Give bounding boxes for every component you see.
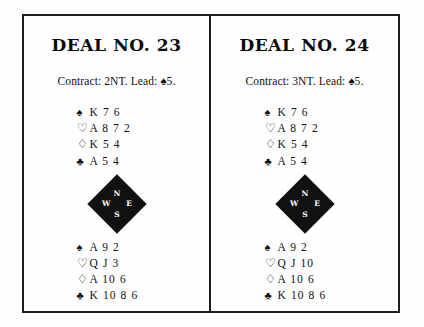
hand-cards: K 5 4 bbox=[90, 137, 121, 152]
spade-icon: ♠ bbox=[77, 105, 90, 120]
hand-row: ♣ K 10 8 6 bbox=[265, 288, 357, 303]
south-hand: ♠ A 9 2 ♡ Q J 10 ♢ A 10 6 ♣ K 10 8 6 bbox=[265, 240, 357, 304]
club-icon: ♣ bbox=[77, 154, 90, 169]
hand-cards: A 10 6 bbox=[90, 272, 127, 287]
hand-row: ♡ Q J 3 bbox=[77, 256, 169, 271]
compass-rose-wrap: N W E S bbox=[24, 183, 209, 225]
heart-icon: ♡ bbox=[265, 121, 278, 136]
contract-line: Contract: 3NT. Lead: ♠5. bbox=[246, 75, 364, 87]
hand-cards: K 10 8 6 bbox=[90, 288, 139, 303]
north-hand: ♠ K 7 6 ♡ A 8 7 2 ♢ K 5 4 ♣ A 5 4 bbox=[265, 105, 357, 169]
hand-row: ♣ A 5 4 bbox=[265, 154, 357, 169]
hand-row: ♠ A 9 2 bbox=[77, 240, 169, 255]
hand-row: ♠ K 7 6 bbox=[265, 105, 357, 120]
club-icon: ♣ bbox=[265, 154, 278, 169]
hand-cards: A 8 7 2 bbox=[278, 121, 319, 136]
compass-west-label: W bbox=[102, 200, 110, 208]
hand-cards: K 5 4 bbox=[278, 137, 309, 152]
heart-icon: ♡ bbox=[265, 256, 278, 271]
deal-title: DEAL NO. 23 bbox=[51, 35, 181, 55]
hand-cards: Q J 3 bbox=[90, 256, 120, 271]
hand-cards: A 10 6 bbox=[278, 272, 315, 287]
hand-row: ♠ K 7 6 bbox=[77, 105, 169, 120]
spade-icon: ♠ bbox=[265, 105, 278, 120]
club-icon: ♣ bbox=[265, 288, 278, 303]
spade-icon: ♠ bbox=[265, 240, 278, 255]
deal-panel-24: DEAL NO. 24 Contract: 3NT. Lead: ♠5. ♠ K… bbox=[211, 16, 398, 311]
compass-rose-wrap: N W E S bbox=[211, 183, 398, 225]
diamond-icon: ♢ bbox=[77, 272, 90, 287]
deals-board: DEAL NO. 23 Contract: 2NT. Lead: ♠5. ♠ K… bbox=[22, 14, 400, 313]
deal-title: DEAL NO. 24 bbox=[239, 35, 369, 55]
hand-row: ♢ K 5 4 bbox=[77, 137, 169, 152]
hand-cards: A 8 7 2 bbox=[90, 121, 131, 136]
hand-cards: A 9 2 bbox=[90, 240, 120, 255]
north-hand: ♠ K 7 6 ♡ A 8 7 2 ♢ K 5 4 ♣ A 5 4 bbox=[77, 105, 169, 169]
hand-cards: A 5 4 bbox=[278, 154, 308, 169]
hand-row: ♠ A 9 2 bbox=[265, 240, 357, 255]
hand-cards: K 7 6 bbox=[90, 105, 121, 120]
compass-rose: N W E S bbox=[275, 174, 334, 233]
diamond-icon: ♢ bbox=[265, 137, 278, 152]
hand-row: ♢ A 10 6 bbox=[265, 272, 357, 287]
hand-cards: K 7 6 bbox=[278, 105, 309, 120]
hand-row: ♣ K 10 8 6 bbox=[77, 288, 169, 303]
hand-row: ♢ A 10 6 bbox=[77, 272, 169, 287]
hand-row: ♣ A 5 4 bbox=[77, 154, 169, 169]
compass-west-label: W bbox=[290, 200, 298, 208]
heart-icon: ♡ bbox=[77, 256, 90, 271]
club-icon: ♣ bbox=[77, 288, 90, 303]
hand-cards: Q J 10 bbox=[278, 256, 315, 271]
hand-cards: A 5 4 bbox=[90, 154, 120, 169]
compass-rose: N W E S bbox=[87, 174, 146, 233]
compass-south-label: S bbox=[114, 210, 119, 218]
hand-row: ♢ K 5 4 bbox=[265, 137, 357, 152]
heart-icon: ♡ bbox=[77, 121, 90, 136]
compass-south-label: S bbox=[302, 210, 307, 218]
hand-row: ♡ A 8 7 2 bbox=[265, 121, 357, 136]
compass-north-label: N bbox=[113, 190, 120, 198]
hand-cards: A 9 2 bbox=[278, 240, 308, 255]
diamond-icon: ♢ bbox=[77, 137, 90, 152]
compass-east-label: E bbox=[126, 200, 132, 208]
compass-north-label: N bbox=[301, 190, 308, 198]
diamond-icon: ♢ bbox=[265, 272, 278, 287]
south-hand: ♠ A 9 2 ♡ Q J 3 ♢ A 10 6 ♣ K 10 8 6 bbox=[77, 240, 169, 304]
hand-row: ♡ Q J 10 bbox=[265, 256, 357, 271]
deal-panel-23: DEAL NO. 23 Contract: 2NT. Lead: ♠5. ♠ K… bbox=[24, 16, 211, 311]
compass-east-label: E bbox=[314, 200, 320, 208]
contract-line: Contract: 2NT. Lead: ♠5. bbox=[58, 75, 176, 87]
hand-cards: K 10 8 6 bbox=[278, 288, 327, 303]
hand-row: ♡ A 8 7 2 bbox=[77, 121, 169, 136]
spade-icon: ♠ bbox=[77, 240, 90, 255]
